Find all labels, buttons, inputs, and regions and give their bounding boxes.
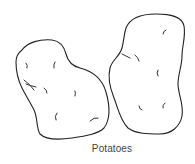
right-potato — [109, 14, 184, 134]
caption: Potatoes — [82, 143, 142, 154]
left-potato — [16, 40, 109, 139]
potatoes-illustration: Potatoes — [0, 0, 195, 164]
potatoes-drawing — [0, 0, 195, 164]
